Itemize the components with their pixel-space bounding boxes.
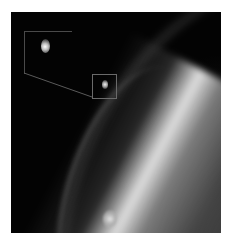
connector-lines [11, 12, 221, 233]
astronomy-image [11, 12, 221, 233]
